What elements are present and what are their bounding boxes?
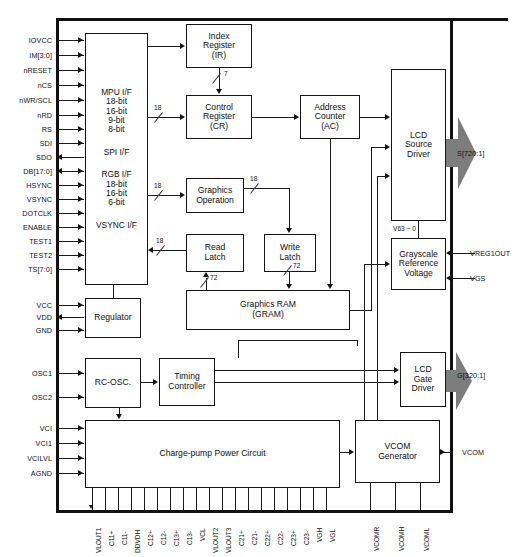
block-control-register: Control Register (CR) <box>186 95 252 139</box>
block-timing-controller: Timing Controller <box>159 358 215 406</box>
pin-label-vcc: VCC <box>0 301 52 310</box>
bottom-pin-label-vgh: VGH <box>316 528 323 542</box>
pin-label-sdo: SDO <box>0 153 52 162</box>
bottom-pin-label-c13p: C13+ <box>173 530 180 546</box>
bus-width-rl-mpu: 18 <box>156 237 163 244</box>
bottom-pin-label-vlout3: VLOUT3 <box>225 528 232 553</box>
pin-label-ts: TS[7:0] <box>0 265 52 274</box>
pin-label-vci1: VCI1 <box>0 439 52 448</box>
pin-label-hsync: HSYNC <box>0 181 52 190</box>
block-lcd-gate-driver: LCD Gate Driver <box>400 352 446 407</box>
pin-label-g-bus: G[320:1] <box>457 371 519 380</box>
pin-label-nreset: nRESET <box>0 66 52 75</box>
grayscale-line-2: Voltage <box>404 269 433 279</box>
bottom-pin-label-c11p: C11+ <box>108 531 115 546</box>
pin-label-iovcc: IOVCC <box>0 36 52 45</box>
graphics-operation-line-1: Operation <box>196 196 234 206</box>
pin-label-dotclk: DOTCLK <box>0 209 52 218</box>
bottom-pin-label-vgl: VGL <box>329 529 336 542</box>
pin-label-sdi: SDI <box>0 139 52 148</box>
pin-label-osc1: OSC1 <box>0 369 52 378</box>
bottom-pin-label-c23p: C23+ <box>290 530 297 546</box>
frame-left-bar <box>56 18 59 513</box>
block-graphics-operation: Graphics Operation <box>186 178 244 213</box>
bottom-pin-label-c13n: C13- <box>186 531 193 545</box>
block-grayscale-reference-voltage: Grayscale Reference Voltage <box>391 238 446 290</box>
block-graphics-ram: Graphics RAM (GRAM) <box>186 290 350 330</box>
address-counter-line-2: (AC) <box>321 122 339 132</box>
mpu-if-line-5: SPI I/F <box>104 148 130 157</box>
bus-width-mpu-cr: 18 <box>154 104 161 111</box>
block-mpu-interface: MPU I/F 18-bit 16-bit 9-bit 8-bit SPI I/… <box>85 33 148 285</box>
lcd-source-driver-line-2: Driver <box>407 150 430 160</box>
pin-label-rs: RS <box>0 125 52 134</box>
regulator-line-0: Regulator <box>94 313 131 323</box>
pin-label-nrd: nRD <box>0 111 52 120</box>
rc-osc-line-0: RC-OSC. <box>95 378 131 388</box>
block-rc-oscillator: RC-OSC. <box>85 358 141 408</box>
pin-label-vcom: VCOM <box>462 448 514 457</box>
pin-label-vdd: VDD <box>0 313 52 322</box>
pin-label-db: DB[17:0] <box>0 167 52 176</box>
bus-slash-gram-rl <box>200 277 209 288</box>
control-register-line-2: (CR) <box>210 122 228 132</box>
pin-label-vcilvl: VCILVL <box>0 454 52 463</box>
read-latch-line-1: Latch <box>204 253 225 263</box>
bus-width-ir-cr: 7 <box>224 70 228 77</box>
bottom-pin-label-c22p: C22+ <box>264 530 271 546</box>
pin-label-vreg1out: VREG1OUT <box>470 249 528 258</box>
bottom-pin-label-vlout1: VLOUT1 <box>95 528 102 553</box>
pin-label-test2: TEST2 <box>0 251 52 260</box>
vcom-generator-line-1: Generator <box>378 452 417 462</box>
mpu-if-line-10: VSYNC I/F <box>96 221 137 230</box>
bus-width-gram-rl: 72 <box>210 274 217 281</box>
frame-top-bar <box>56 18 508 21</box>
mpu-if-line-4: 8-bit <box>108 125 124 134</box>
bottom-pin-label-c12p: C12+ <box>147 530 154 546</box>
pin-label-im: IM[3:0] <box>0 51 52 60</box>
pin-label-ncs: nCS <box>0 81 52 90</box>
pin-label-enable: ENABLE <box>0 223 52 232</box>
mpu-if-line-9: 6-bit <box>108 198 124 207</box>
block-lcd-source-driver: LCD Source Driver <box>391 69 446 221</box>
pin-label-agnd: AGND <box>0 469 52 478</box>
pin-label-osc2: OSC2 <box>0 393 52 402</box>
frame-right-bar <box>450 18 453 513</box>
bottom-pin-label-c11n: C11- <box>121 531 128 545</box>
charge-pump-line-0: Charge-pump Power Circuit <box>159 449 265 459</box>
block-vcom-generator: VCOM Generator <box>355 420 440 483</box>
block-read-latch: Read Latch <box>186 234 244 272</box>
timing-controller-line-1: Controller <box>168 382 205 392</box>
bus-width-wl-gram: 72 <box>293 262 300 269</box>
pin-label-s-bus: S[720:1] <box>457 149 527 158</box>
block-regulator: Regulator <box>85 298 141 338</box>
pin-label-test1: TEST1 <box>0 237 52 246</box>
annotation-grayscale-range: V63 ~ 0 <box>393 225 416 232</box>
pin-label-gnd: GND <box>0 326 52 335</box>
bus-width-gop-wl: 18 <box>250 175 257 182</box>
bottom-pin-label-c23n: C23- <box>303 531 310 545</box>
bottom-pin-label-c22n: C22- <box>277 531 284 545</box>
pin-label-vci: VCI <box>0 424 52 433</box>
bottom-pin-label-c21p: C21+ <box>238 530 245 546</box>
frame-bottom-bar <box>56 510 450 513</box>
block-diagram-canvas: IOVCC IM[3:0] nRESET nCS nWR/SCL nRD RS … <box>0 0 529 557</box>
bottom-pin-label-vcoml: VCOML <box>423 528 430 551</box>
bottom-pin-label-vcomr: VCOMR <box>373 527 380 551</box>
bottom-pin-label-vcl: VCL <box>199 528 206 541</box>
bottom-pin-label-c12n: C12- <box>160 531 167 545</box>
graphics-ram-line-1: (GRAM) <box>252 310 284 320</box>
bottom-pin-label-ddvdh: DDVDH <box>134 530 141 553</box>
bus-width-mpu-gop: 18 <box>154 182 161 189</box>
block-index-register: Index Register (IR) <box>186 24 252 68</box>
pin-label-vsync: VSYNC <box>0 195 52 204</box>
pin-label-vgs: VGS <box>470 274 520 283</box>
block-charge-pump-power-circuit: Charge-pump Power Circuit <box>85 420 340 488</box>
bottom-pin-label-vlout2: VLOUT2 <box>212 528 219 553</box>
bottom-pin-label-c21n: C21- <box>251 531 258 545</box>
bottom-pin-label-vcomh: VCOMH <box>398 527 405 551</box>
index-register-line-2: (IR) <box>212 51 226 61</box>
pin-label-nwr-scl: nWR/SCL <box>0 96 52 105</box>
lcd-gate-driver-line-2: Driver <box>412 384 435 394</box>
block-address-counter: Address Counter (AC) <box>300 95 360 139</box>
